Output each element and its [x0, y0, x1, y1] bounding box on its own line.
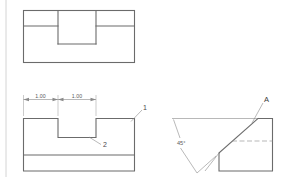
dim-arrow-left-end [53, 98, 59, 101]
right-view-chamfer-face-line [219, 119, 258, 154]
dimension-label-left: 1.00 [35, 93, 46, 99]
callout-1-label: 1 [143, 104, 147, 111]
angle-leader-vertex [197, 156, 216, 173]
top-view-outline [24, 11, 135, 63]
top-view [24, 11, 135, 63]
callout-2-label: 2 [103, 141, 107, 148]
surface-a-label: A [264, 95, 269, 104]
surface-a-leader-line [252, 103, 263, 123]
callout-1-group: 1 [131, 104, 147, 122]
drawing-svg: 1.00 1.00 1 2 [0, 0, 288, 177]
technical-drawing-canvas: 1.00 1.00 1 2 [0, 0, 288, 177]
right-view-block-outline [219, 119, 273, 172]
right-pictorial-view [172, 119, 273, 172]
dim-arrow-right-start [58, 98, 64, 101]
front-view [24, 119, 135, 172]
dim-arrow-left-start [24, 98, 30, 101]
callout-2-leader-line [89, 137, 101, 145]
callout-1-leader-line [131, 110, 142, 122]
angle-label: 45° [177, 140, 185, 146]
dimension-label-right: 1.00 [72, 93, 83, 99]
front-view-outline [24, 119, 135, 172]
front-view-dimensions: 1.00 1.00 [24, 93, 97, 116]
angle-leader-lower [181, 148, 198, 173]
right-view-lower-construction-line [205, 153, 219, 171]
callout-2-group: 2 [89, 137, 107, 148]
angle-leader-upper [174, 120, 181, 139]
dim-arrow-right-end [91, 98, 97, 101]
